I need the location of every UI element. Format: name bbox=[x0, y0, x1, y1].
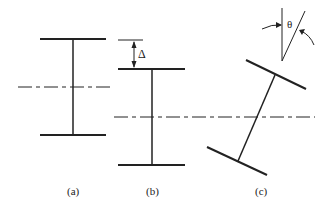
theta-symbol: θ bbox=[287, 18, 292, 30]
panel-label-a: (a) bbox=[67, 185, 79, 197]
delta-symbol: Δ bbox=[138, 47, 146, 62]
panel-label-b: (b) bbox=[146, 185, 159, 197]
section-a bbox=[18, 39, 110, 135]
panel-label-c: (c) bbox=[255, 185, 267, 197]
section-c bbox=[207, 8, 314, 175]
section-b bbox=[118, 40, 185, 165]
beam-section-diagram bbox=[0, 0, 333, 209]
